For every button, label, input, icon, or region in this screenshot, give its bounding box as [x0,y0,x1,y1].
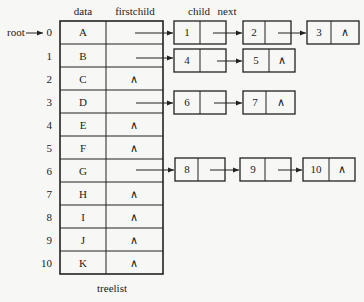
child-value: 8 [184,163,190,175]
firstchild-null: ∧ [130,142,138,154]
data-cell: K [79,257,87,269]
row-index: 1 [47,50,53,62]
child-value: 1 [184,26,190,38]
child-value: 5 [253,54,259,66]
firstchild-null: ∧ [130,73,138,85]
row-index: 3 [47,96,53,108]
header-firstchild: firstchild [115,5,155,17]
child-value: 7 [252,96,258,108]
child-value: 6 [184,96,190,108]
child-value: 2 [251,26,257,38]
data-cell: F [80,142,86,154]
data-cell: H [79,188,87,200]
row-index: 2 [47,73,53,85]
table-caption: treelist [97,282,127,294]
table-row: 1 B [47,50,87,62]
row-index: 7 [47,188,53,200]
data-cell: C [79,73,86,85]
header-next: next [218,5,237,17]
next-null: ∧ [341,26,349,38]
data-cell: A [79,26,87,38]
child-list-row-3: 6 7 ∧ [136,91,295,114]
child-node: 10 ∧ [303,158,355,181]
child-value: 4 [184,54,190,66]
header-data: data [74,5,92,17]
table-rows: 0 A 1 B 2 C ∧ 3 D 4 E ∧ 5 F ∧ [41,26,138,269]
row-index: 0 [47,26,53,38]
firstchild-null: ∧ [130,211,138,223]
table-row: 6 G [47,165,88,177]
data-cell: B [79,50,86,62]
row-index: 10 [41,257,53,269]
row-index: 4 [47,119,53,131]
row-index: 6 [47,165,53,177]
child-node: 5 ∧ [243,49,295,72]
next-null: ∧ [338,163,346,175]
table-row: 10 K ∧ [41,257,138,269]
child-node: 3 ∧ [307,21,359,44]
row-index: 9 [47,234,53,246]
data-cell: I [81,211,85,223]
data-cell: G [79,165,87,177]
next-null: ∧ [278,54,286,66]
table-row: 0 A [47,26,88,38]
firstchild-null: ∧ [130,257,138,269]
firstchild-null: ∧ [130,119,138,131]
tree-child-list-diagram: data firstchild child next root 0 A 1 B [0,0,364,302]
table-frame [60,21,163,274]
next-null: ∧ [277,96,285,108]
row-index: 5 [47,142,53,154]
data-cell: D [79,96,87,108]
child-list-row-6: 8 9 10 ∧ [136,158,355,181]
root-label: root [7,26,25,38]
data-cell: J [81,234,86,246]
child-node: 7 ∧ [243,91,295,114]
firstchild-null: ∧ [130,188,138,200]
firstchild-null: ∧ [130,234,138,246]
child-list-row-1: 4 5 ∧ [136,49,295,72]
child-list-row-0: 1 2 3 ∧ [135,21,359,44]
treelist-table [60,21,163,274]
child-value: 3 [316,26,322,38]
header-child: child [188,5,210,17]
child-value: 10 [311,163,323,175]
data-cell: E [80,119,87,131]
child-value: 9 [250,163,256,175]
row-index: 8 [47,211,53,223]
table-row: 3 D [47,96,88,108]
